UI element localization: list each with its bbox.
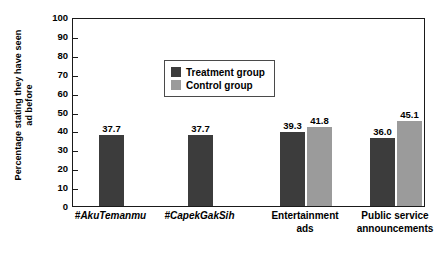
bar-value-label: 37.7 bbox=[182, 124, 219, 134]
y-axis-tick-label: 30 bbox=[44, 145, 68, 155]
x-axis-category-labels: #AkuTemanmu#CapekGakSihEntertainmentadsP… bbox=[72, 209, 425, 251]
bar-value-label: 41.8 bbox=[301, 116, 338, 126]
y-axis-tick-label: 60 bbox=[44, 89, 68, 99]
bar-treatment bbox=[370, 138, 395, 206]
legend-swatch-control-icon bbox=[171, 80, 181, 90]
y-axis-tick-label: 90 bbox=[44, 32, 68, 42]
y-axis-tick-label: 80 bbox=[44, 51, 68, 61]
y-axis-tick-label: 50 bbox=[44, 108, 68, 118]
y-axis-tick-label: 10 bbox=[44, 183, 68, 193]
plot-area: Treatment group Control group 37.737.739… bbox=[72, 18, 425, 207]
y-axis-tick-mark bbox=[73, 151, 78, 152]
x-axis-category-label: #CapekGakSih bbox=[140, 209, 260, 222]
legend-label-control: Control group bbox=[186, 80, 253, 91]
legend-label-treatment: Treatment group bbox=[186, 67, 265, 78]
bar-value-label: 45.1 bbox=[391, 110, 428, 120]
y-axis-tick-mark bbox=[73, 114, 78, 115]
x-axis-category-label-line1: Public service bbox=[361, 210, 428, 221]
bar-value-label: 37.7 bbox=[93, 124, 130, 134]
y-axis-tick-mark bbox=[73, 95, 78, 96]
y-axis-tick-labels: 0102030405060708090100 bbox=[44, 12, 68, 208]
y-axis-tick-label: 40 bbox=[44, 126, 68, 136]
y-axis-title-line1: Percentage stating they have seen bbox=[13, 30, 23, 181]
legend-swatch-treatment-icon bbox=[171, 67, 181, 77]
x-axis-category-label-line1: #AkuTemanmu bbox=[75, 210, 146, 221]
y-axis-tick-label: 20 bbox=[44, 164, 68, 174]
bar-chart: Percentage stating they have seen ad bef… bbox=[0, 0, 435, 253]
x-axis-category-label-line2: announcements bbox=[335, 222, 435, 235]
bar-treatment bbox=[188, 135, 213, 206]
legend-item-control: Control group bbox=[171, 79, 265, 91]
y-axis-title: Percentage stating they have seen ad bef… bbox=[0, 0, 48, 210]
bar-control bbox=[397, 121, 422, 206]
bar-value-label: 36.0 bbox=[364, 127, 401, 137]
y-axis-tick-mark bbox=[73, 132, 78, 133]
bar-treatment bbox=[280, 132, 305, 206]
y-axis-tick-mark bbox=[73, 189, 78, 190]
y-axis-tick-label: 70 bbox=[44, 70, 68, 80]
x-axis-category-label: Public serviceannouncements bbox=[335, 209, 435, 235]
y-axis-tick-mark bbox=[73, 170, 78, 171]
bar-treatment bbox=[99, 135, 124, 206]
legend: Treatment group Control group bbox=[164, 60, 275, 97]
legend-item-treatment: Treatment group bbox=[171, 66, 265, 78]
y-axis-tick-mark bbox=[73, 76, 78, 77]
x-axis-category-label-line1: Entertainment bbox=[271, 210, 338, 221]
x-axis-category-label-line1: #CapekGakSih bbox=[164, 210, 234, 221]
y-axis-tick-mark bbox=[73, 57, 78, 58]
y-axis-tick-mark bbox=[73, 38, 78, 39]
bar-control bbox=[307, 127, 332, 206]
y-axis-title-line2: ad before bbox=[24, 30, 35, 181]
y-axis-tick-label: 100 bbox=[44, 13, 68, 23]
